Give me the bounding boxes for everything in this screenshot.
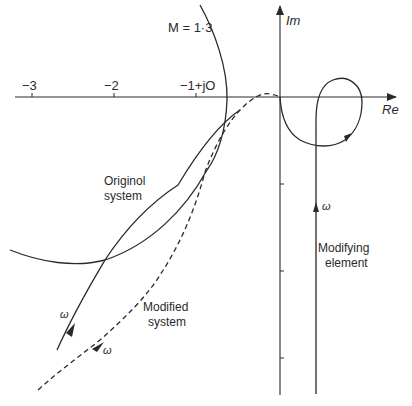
m-circle-label: M = 1·3 (168, 20, 212, 35)
imag-axis-label: Im (286, 13, 301, 28)
modifying-element-label-1: Modifying (318, 241, 369, 255)
modifying-element-label-2: element (325, 256, 368, 270)
modified-system-curve: ω Modified system (38, 94, 280, 390)
m-circle: M = 1·3 (10, 5, 227, 264)
tick-label-minus-1: −1+jO (180, 78, 215, 93)
modified-omega-label: ω (103, 344, 112, 356)
original-omega-label: ω (60, 308, 69, 320)
loop-direction-arrow-icon (344, 133, 352, 142)
modified-system-label-2: system (148, 315, 186, 329)
real-axis: −3 −2 −1+jO Re (15, 78, 399, 117)
imag-axis: Im (280, 6, 301, 395)
original-system-label-1: Originol (104, 174, 145, 188)
modifying-element-curve: ω Modifying element (280, 78, 369, 394)
tick-label-minus-2: −2 (104, 78, 119, 93)
modifying-omega-label: ω (322, 200, 331, 212)
diagram-canvas: −3 −2 −1+jO Re Im M = 1·3 ω Originol sys… (0, 0, 412, 406)
modified-system-label-1: Modified (143, 300, 188, 314)
real-axis-label: Re (382, 102, 399, 117)
modifying-freq-arrow-icon (313, 202, 319, 212)
original-freq-arrow-icon (66, 323, 75, 337)
tick-label-minus-3: −3 (22, 78, 37, 93)
nyquist-diagram: −3 −2 −1+jO Re Im M = 1·3 ω Originol sys… (0, 0, 412, 406)
original-system-curve: ω Originol system (57, 110, 240, 350)
original-system-label-2: system (104, 189, 142, 203)
